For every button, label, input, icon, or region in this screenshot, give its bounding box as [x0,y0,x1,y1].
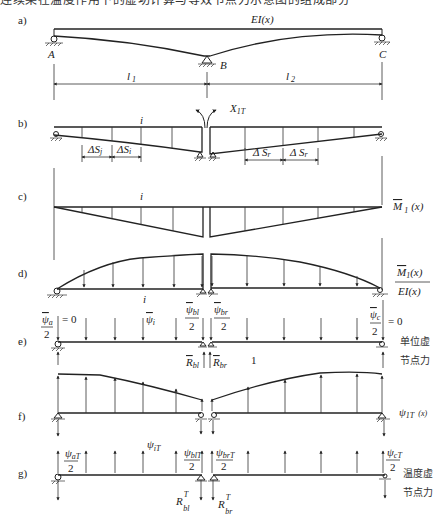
reaction-blt-label: RTbl [175,490,190,513]
svg-text:EI(x): EI(x) [397,285,421,298]
stiffness-label: EI(x) [250,13,274,26]
delta-s-label: ΔSi [116,143,131,156]
svg-text:2: 2 [189,320,195,332]
psi-c-label: ψc 2 = 0 [370,308,403,337]
support-icons [51,413,390,423]
psi-bl-label: ψbl 2 [185,303,200,332]
svg-text:ψbr: ψbr [214,303,229,317]
temp-load-arrows [58,374,382,413]
roller-support-a-icon [45,36,63,46]
panel-g: g) [18,438,433,516]
svg-text:2: 2 [372,325,378,337]
roller-support-icon [375,132,387,142]
segment-label-d: i [143,293,146,305]
svg-text:= 0: = 0 [62,313,77,325]
panel-e: e) [18,300,430,370]
delta-s-label: ΔSj [87,143,103,156]
psi-i-label: ψi [146,313,155,327]
note-temp-virtual-line2: 节点力 [403,486,433,498]
moment-diagram-right [210,207,382,237]
curvature-diagram-left [57,254,203,289]
roller-support-icon [50,132,62,142]
beam-diagram: a) EI(x) A B C [0,0,445,526]
span-2-label: l2 [286,70,295,84]
svg-text:2: 2 [221,460,227,472]
svg-text:ψa: ψa [42,313,53,327]
svg-text:ψblT: ψblT [184,446,202,460]
temp-curvature-right [212,372,382,400]
panel-f: f) [18,372,428,436]
pin-support-b-icon [198,56,216,67]
psi-1t-label: ψ1T(x) [399,406,428,420]
panel-d: d) i M1(x) [18,238,430,305]
svg-text:ψbl: ψbl [186,303,200,317]
curvature-fraction-label: M1(x) EI(x) [395,266,430,298]
redundant-moment-right-arrow [207,110,216,128]
panel-f-tag: f) [18,410,26,423]
support-a-label: A [47,48,55,60]
reaction-brt-label: RTbr [217,493,233,516]
support-b-label: B [220,59,227,71]
redundant-label: X1T [229,102,246,116]
segment-label-b: i [140,114,143,126]
unit-label: 1 [251,354,257,366]
svg-text:ψc: ψc [370,308,381,322]
psi-ct-label: ψcT 2 [386,446,402,473]
panel-g-tag: g) [18,467,28,480]
moment-diagram-left [54,207,203,237]
psi-br-label: ψbr 2 [214,303,230,332]
support-c-label: C [379,48,387,60]
panel-d-tag: d) [18,267,28,280]
svg-text:= 0: = 0 [388,315,403,327]
span-1-label: l1 [127,70,136,84]
psi-blt-label: ψblT 2 [184,446,202,472]
note-temp-virtual-line1: 温度虚 [403,467,433,479]
svg-text:ψbrT: ψbrT [216,446,235,460]
reaction-br-label: Rbr [212,356,228,370]
note-unit-virtual-line2: 节点力 [400,354,430,366]
segment-label-c: i [140,190,143,202]
temp-reaction-arrows [58,420,384,436]
svg-text:2: 2 [390,461,396,473]
temp-curvature-left [58,374,202,400]
delta-s-label: Δ Sr [289,146,309,159]
psi-it-label: ψiT [147,438,161,453]
redundant-moment-left-arrow [196,110,205,128]
panel-a-tag: a) [18,14,27,27]
curvature-diagram-right [211,254,380,289]
beam-haunched-soffit [54,34,382,56]
panel-e-tag: e) [18,335,27,348]
svg-text:2: 2 [44,328,50,340]
svg-text:2: 2 [189,460,195,472]
psi-brt-label: ψbrT 2 [216,446,235,472]
psi-at-label: ψaT 2 [64,447,81,474]
panel-c: c) i M1(x) [18,156,424,260]
panel-b: b) i X1T ΔSj [18,102,387,165]
svg-text:ψaT: ψaT [65,447,81,461]
moment-label: M1(x) [392,200,424,215]
svg-text:2: 2 [68,462,74,474]
psi-a-label: ψa 2 = 0 [41,313,77,340]
panel-a: a) EI(x) A B C [18,13,390,100]
svg-text:2: 2 [221,320,227,332]
temp-virtual-reaction-arrows [58,480,385,500]
roller-support-c-icon [374,35,390,45]
delta-s-label: Δ Sr [252,146,272,159]
note-unit-virtual-line1: 单位虚 [400,335,430,347]
panel-b-tag: b) [18,117,28,130]
panel-c-tag: c) [18,190,27,203]
svg-text:ψcT: ψcT [387,446,402,460]
reaction-bl-label: Rbl [185,356,200,370]
svg-text:M1(x): M1(x) [396,266,423,280]
